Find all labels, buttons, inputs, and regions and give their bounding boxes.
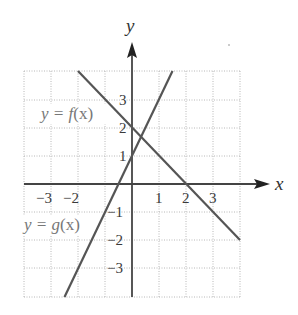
y-tick: −3 — [107, 260, 123, 276]
x-tick: 3 — [209, 190, 217, 206]
y-tick: 1 — [119, 148, 127, 164]
g-label: y = g(x) — [22, 215, 80, 234]
speck — [228, 44, 230, 46]
y-tick: −2 — [107, 232, 123, 248]
x-tick: 2 — [182, 190, 190, 206]
x-tick: −2 — [63, 190, 79, 206]
f-label: y = f(x) — [39, 104, 93, 123]
x-tick: 1 — [155, 190, 163, 206]
y-tick: 2 — [119, 120, 127, 136]
y-tick: 3 — [119, 92, 127, 108]
y-tick: −1 — [107, 204, 123, 220]
x-axis-label: x — [274, 173, 284, 194]
x-tick: −3 — [36, 190, 52, 206]
y-axis-label: y — [124, 15, 135, 36]
graph: x y −3 −2 1 2 3 3 2 1 −1 −2 −3 y = f(x) … — [0, 0, 298, 315]
